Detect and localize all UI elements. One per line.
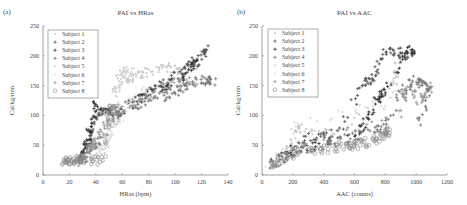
x-tick-label: 1200 bbox=[441, 179, 453, 185]
x-tick-label: 0 bbox=[261, 179, 264, 185]
y-tick-label: 0 bbox=[36, 172, 39, 178]
legend-entry: Subject 1 bbox=[282, 30, 305, 36]
chart-title: PAI vs HRas bbox=[118, 9, 154, 17]
x-tick-label: 1000 bbox=[410, 179, 422, 185]
y-tick-label: 250 bbox=[249, 23, 258, 29]
legend: Subject 1Subject 2Subject 3Subject 4Subj… bbox=[268, 29, 318, 97]
x-tick-label: 20 bbox=[66, 179, 72, 185]
legend-entry: Subject 2 bbox=[282, 38, 305, 44]
x-tick-label: 200 bbox=[288, 179, 297, 185]
legend-entry: Subject 5 bbox=[62, 63, 85, 69]
legend-entry: Subject 3 bbox=[282, 46, 305, 52]
y-tick-label: 250 bbox=[30, 23, 39, 29]
y-axis-label: Cal/kg/min bbox=[8, 85, 15, 115]
panel-label: (a) bbox=[3, 8, 11, 16]
legend-entry: Subject 6 bbox=[282, 71, 305, 77]
legend-entry: Subject 4 bbox=[62, 55, 85, 61]
legend-entry: Subject 8 bbox=[282, 87, 305, 93]
y-tick-label: 50 bbox=[33, 142, 39, 148]
y-tick-label: 100 bbox=[249, 112, 258, 118]
x-tick-label: 60 bbox=[119, 179, 125, 185]
legend-entry: Subject 3 bbox=[62, 47, 85, 53]
x-axis-label: HRas (bpm) bbox=[120, 190, 152, 198]
x-tick-label: 800 bbox=[381, 179, 390, 185]
legend-entry: Subject 6 bbox=[62, 72, 85, 78]
chart-panel-b: (b)PAI vs AAC020040060080010001200050100… bbox=[234, 8, 453, 198]
y-tick-label: 150 bbox=[249, 83, 258, 89]
chart-title: PAI vs AAC bbox=[337, 9, 372, 17]
x-tick-label: 400 bbox=[319, 179, 328, 185]
legend-entry: Subject 2 bbox=[62, 39, 85, 45]
legend-entry: Subject 1 bbox=[62, 31, 85, 37]
legend-entry: Subject 7 bbox=[62, 80, 85, 86]
y-tick-label: 200 bbox=[249, 53, 258, 59]
figure: (a)PAI vs HRas02040608010012014005010015… bbox=[0, 0, 467, 205]
y-tick-label: 50 bbox=[252, 142, 258, 148]
x-tick-label: 0 bbox=[42, 179, 45, 185]
x-tick-label: 120 bbox=[197, 179, 206, 185]
y-axis-label: Cal/kg/min bbox=[234, 85, 241, 115]
legend-entry: Subject 4 bbox=[282, 54, 305, 60]
chart-panel-a: (a)PAI vs HRas02040608010012014005010015… bbox=[3, 8, 233, 198]
x-tick-label: 140 bbox=[224, 179, 233, 185]
x-tick-label: 40 bbox=[93, 179, 99, 185]
x-tick-label: 80 bbox=[146, 179, 152, 185]
scatter-figure: (a)PAI vs HRas02040608010012014005010015… bbox=[0, 0, 467, 205]
legend-entry: Subject 8 bbox=[62, 88, 85, 94]
y-tick-label: 100 bbox=[30, 112, 39, 118]
x-tick-label: 600 bbox=[350, 179, 359, 185]
legend: Subject 1Subject 2Subject 3Subject 4Subj… bbox=[48, 30, 98, 98]
x-axis-label: AAC (counts) bbox=[336, 190, 373, 198]
y-tick-label: 200 bbox=[30, 53, 39, 59]
x-tick-label: 100 bbox=[171, 179, 180, 185]
legend-entry: Subject 5 bbox=[282, 62, 305, 68]
panel-label: (b) bbox=[237, 8, 246, 16]
y-tick-label: 150 bbox=[30, 83, 39, 89]
legend-entry: Subject 7 bbox=[282, 79, 305, 85]
y-tick-label: 0 bbox=[255, 172, 258, 178]
